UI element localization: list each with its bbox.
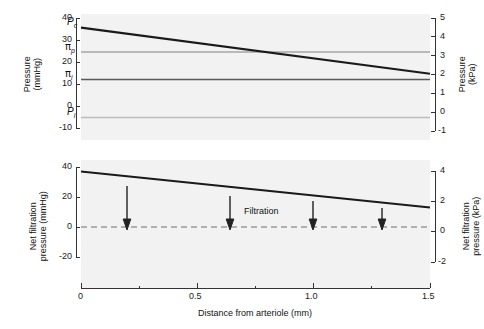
- x-tick-0point5: 0.5: [189, 292, 202, 301]
- top-right-tick-3: 3: [440, 51, 445, 60]
- bottom-right-axis-title: Net filtration pressure (kPa): [461, 171, 482, 281]
- top-right-tick-5: 5: [440, 13, 445, 22]
- bottom-left-axis-title-line1: Net filtration: [28, 202, 38, 250]
- x-axis-title: Distance from arteriole (mm): [175, 308, 335, 318]
- top-right-axis-title-line2: (kPa): [467, 64, 477, 86]
- top-left-tick-neg10: -10: [42, 123, 72, 132]
- curve-label-pi-i: πi: [65, 69, 73, 81]
- top-left-axis: [76, 18, 80, 128]
- bottom-right-tick-neg2: -2: [438, 257, 446, 266]
- bottom-right-axis-title-line2: pressure (kPa): [471, 197, 481, 256]
- top-plot-area: [81, 14, 430, 140]
- curve-label-Pc-sub: c: [74, 22, 78, 29]
- x-tick-0: 0: [78, 292, 83, 301]
- figure-container: 40 30 20 10 0 -10 5 4 3 2 1 0 -1 Pressur…: [0, 0, 484, 329]
- filtration-annotation: Filtration: [244, 206, 279, 216]
- bottom-left-axis: [76, 167, 80, 257]
- bottom-left-axis-title: Net filtration pressure (mmHg): [28, 171, 49, 281]
- top-left-axis-title-line2: (mmHg): [32, 58, 42, 91]
- top-left-axis-title: Pressure (mmHg): [22, 36, 43, 112]
- bottom-right-axis: [431, 171, 435, 262]
- top-right-tick-4: 4: [440, 32, 445, 41]
- top-right-tick-neg1: -1: [438, 126, 446, 135]
- top-right-axis-title-line1: Pressure: [457, 56, 467, 92]
- curve-label-pi-p-sub: p: [71, 47, 75, 54]
- curve-label-Pi-sub: i: [74, 112, 76, 119]
- bottom-left-tick-20: 20: [46, 192, 72, 201]
- curve-label-Pc-base: P: [67, 16, 74, 27]
- curve-label-pi-i-sub: i: [71, 74, 73, 81]
- x-tick-1point5: 1.5: [422, 292, 435, 301]
- bottom-plot-area: [81, 160, 430, 288]
- x-tick-1point0: 1.0: [305, 292, 318, 301]
- top-right-tick-0: 0: [440, 107, 445, 116]
- top-right-tick-2: 2: [440, 69, 445, 78]
- bottom-right-axis-title-line1: Net filtration: [461, 202, 471, 250]
- bottom-left-axis-title-line2: pressure (mmHg): [38, 191, 48, 261]
- top-right-axis: [431, 18, 435, 131]
- bottom-left-tick-40: 40: [46, 162, 72, 171]
- curve-label-pi-p: πp: [65, 42, 75, 54]
- top-right-tick-1: 1: [440, 88, 445, 97]
- bottom-right-tick-0: 0: [440, 226, 445, 235]
- top-left-tick-20: 20: [46, 57, 72, 66]
- bottom-right-tick-2: 2: [440, 196, 445, 205]
- bottom-left-tick-0: 0: [46, 222, 72, 231]
- curve-label-Pc: Pc: [67, 17, 77, 29]
- top-left-axis-title-line1: Pressure: [22, 56, 32, 92]
- curve-label-Pi-base: P: [67, 106, 74, 117]
- curve-label-Pi: Pi: [67, 107, 75, 119]
- top-right-axis-title: Pressure (kPa): [457, 36, 478, 112]
- bottom-right-tick-4: 4: [440, 166, 445, 175]
